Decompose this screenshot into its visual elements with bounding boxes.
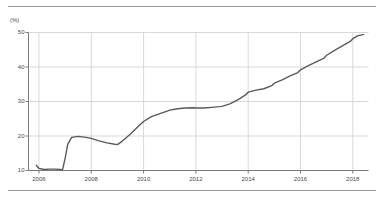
gridlines bbox=[29, 33, 369, 171]
x-tick-label: 2012 bbox=[181, 176, 211, 183]
y-tick-label: 50 bbox=[9, 29, 25, 36]
axes bbox=[26, 33, 369, 174]
chart-page: (%) 1020304050 2006200820102012201420162… bbox=[0, 0, 384, 198]
plot-area: 1020304050 2006200820102012201420162018 bbox=[0, 0, 384, 198]
x-tick-label: 2014 bbox=[233, 176, 263, 183]
y-tick-label: 10 bbox=[9, 167, 25, 174]
line-chart-svg bbox=[0, 0, 384, 198]
x-tick-label: 2006 bbox=[24, 176, 54, 183]
y-tick-label: 20 bbox=[9, 133, 25, 140]
x-tick-label: 2018 bbox=[338, 176, 368, 183]
x-tick-label: 2010 bbox=[129, 176, 159, 183]
y-tick-label: 30 bbox=[9, 98, 25, 105]
x-tick-label: 2016 bbox=[286, 176, 316, 183]
x-tick-label: 2008 bbox=[76, 176, 106, 183]
data-line-share bbox=[36, 35, 363, 170]
y-tick-label: 40 bbox=[9, 64, 25, 71]
